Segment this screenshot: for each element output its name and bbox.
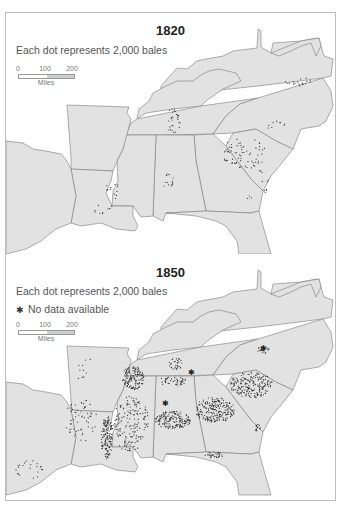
map-title-1820: 1820 xyxy=(6,23,335,38)
scale-tick-100: 100 xyxy=(39,321,51,328)
map-title-1850: 1850 xyxy=(6,265,335,280)
no-data-asterisk-icon: ✱ xyxy=(260,344,267,353)
no-data-legend: ✱No data available xyxy=(16,303,109,315)
scale-tick-0: 0 xyxy=(16,65,20,72)
dot-legend-1850: Each dot represents 2,000 bales xyxy=(16,285,167,297)
no-data-asterisk-icon: ✱ xyxy=(162,399,169,408)
scale-bar-1850: 0 100 200 Miles xyxy=(16,321,76,347)
scale-tick-200: 200 xyxy=(66,65,78,72)
state-outlines xyxy=(6,29,333,254)
scale-tick-100: 100 xyxy=(39,65,51,72)
state-texas xyxy=(6,141,76,254)
scale-unit: Miles xyxy=(16,79,76,86)
no-data-asterisk-icon: ✱ xyxy=(188,368,195,377)
dot-legend-1820: Each dot represents 2,000 bales xyxy=(16,44,167,56)
state-florida xyxy=(166,452,271,495)
state-texas xyxy=(6,382,76,495)
state-florida xyxy=(166,211,271,254)
scale-bar-1820: 0 100 200 Miles xyxy=(16,65,76,91)
scale-tick-0: 0 xyxy=(16,321,20,328)
scale-unit: Miles xyxy=(16,335,76,342)
no-data-label: No data available xyxy=(28,303,109,315)
asterisk-icon: ✱ xyxy=(16,305,24,315)
map-panel-1850: ✱✱✱ 1850 Each dot represents 2,000 bales… xyxy=(5,254,336,501)
scale-tick-200: 200 xyxy=(66,321,78,328)
map-panel-1820: 1820 Each dot represents 2,000 bales 0 1… xyxy=(5,12,336,255)
